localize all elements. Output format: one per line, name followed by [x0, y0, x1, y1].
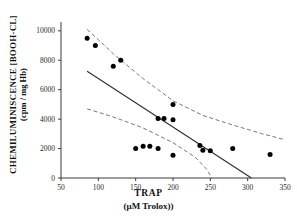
data-point: [171, 102, 176, 107]
data-point: [93, 43, 98, 48]
y-axis-ticks: 0200040006000800010000: [36, 26, 61, 182]
y-tick-label: 4000: [40, 115, 55, 124]
data-point: [156, 146, 161, 151]
data-point: [141, 144, 146, 149]
data-point: [156, 116, 161, 121]
lower-confidence-band: [87, 109, 212, 178]
y-tick-label: 0: [51, 174, 55, 183]
data-point: [111, 64, 116, 69]
upper-confidence-band: [87, 29, 285, 139]
data-point: [200, 148, 205, 153]
chart-figure: CHEMILUMINISCENCE [BOOH-CL] (cpm / mg Hb…: [0, 0, 297, 224]
data-points: [85, 36, 273, 158]
y-tick-label: 6000: [40, 85, 55, 94]
data-point: [133, 146, 138, 151]
data-point: [171, 153, 176, 158]
x-axis-title: TRAP (μM Trolox)): [0, 188, 297, 212]
data-point: [118, 58, 123, 63]
data-point: [147, 144, 152, 149]
data-point: [208, 148, 213, 153]
series-lines: [87, 29, 285, 178]
y-tick-label: 10000: [36, 26, 55, 35]
data-point: [268, 152, 273, 157]
data-point: [197, 143, 202, 148]
y-tick-label: 8000: [40, 56, 55, 65]
x-axis-title-main: TRAP: [0, 188, 297, 199]
x-axis-title-units: (μM Trolox)): [0, 201, 297, 212]
data-point: [230, 146, 235, 151]
data-point: [171, 117, 176, 122]
data-point: [162, 116, 167, 121]
regression-line: [87, 71, 251, 178]
data-point: [85, 36, 90, 41]
y-tick-label: 2000: [40, 144, 55, 153]
